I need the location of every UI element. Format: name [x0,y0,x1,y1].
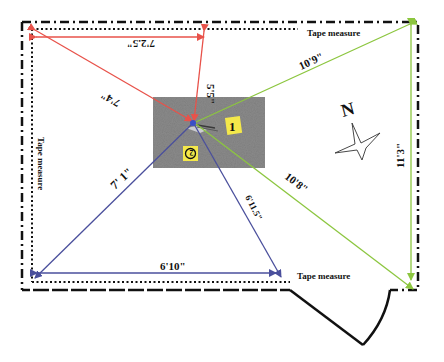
compass-star-icon [335,123,380,160]
evidence-marker-1: 1 [225,116,242,135]
label-blue-left: 7' 1" [107,165,135,192]
tape-label-top: Tape measure [307,28,360,38]
tape-label-left: Tape measure [36,137,46,190]
svg-text:2: 2 [190,148,194,157]
label-blue-bottom: 6'10" [160,260,186,272]
compass: N [335,98,380,160]
label-red-top: 7'2.5" [127,38,155,50]
label-green-bottom: 10'8" [283,170,311,195]
compass-north-label: N [339,98,357,121]
door [290,290,390,345]
label-green-vertical: 11'3" [394,143,406,168]
label-red-vertical: 5'5" [205,84,217,104]
scene-diagram: Tape measure Tape measure Tape measure 1… [0,0,444,362]
tape-label-bottom: Tape measure [297,271,350,281]
svg-text:1: 1 [229,119,236,134]
reference-point [190,120,196,126]
label-blue-right: 6'11.5" [243,193,264,222]
evidence-marker-2: 2 [183,146,198,161]
label-red-diagonal: 7'4" [99,89,122,109]
label-green-top: 10'9" [297,50,325,72]
